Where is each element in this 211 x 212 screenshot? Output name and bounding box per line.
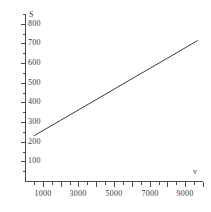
y-tick-label: 100 — [28, 157, 41, 165]
y-tick-major — [21, 161, 26, 162]
y-tick-minor — [23, 152, 26, 153]
x-tick-minor — [159, 182, 160, 185]
x-tick-major — [203, 182, 204, 187]
y-tick-label: 700 — [28, 39, 41, 47]
x-tick-major — [61, 182, 62, 187]
y-tick-minor — [23, 93, 26, 94]
y-tick-label: 300 — [28, 118, 41, 126]
x-tick-minor — [70, 182, 71, 185]
x-axis-title: v — [193, 168, 197, 176]
y-tick-label: 800 — [28, 20, 41, 28]
x-tick-minor — [34, 182, 35, 185]
x-tick-minor — [194, 182, 195, 185]
y-axis-title: S — [29, 11, 33, 19]
y-tick-major — [21, 102, 26, 103]
y-tick-minor — [23, 132, 26, 133]
x-tick-major — [96, 182, 97, 187]
x-tick-major — [185, 182, 186, 187]
x-tick-minor — [105, 182, 106, 185]
y-tick-major — [21, 24, 26, 25]
x-tick-label: 9000 — [177, 190, 194, 198]
y-tick-minor — [23, 53, 26, 54]
x-tick-minor — [176, 182, 177, 185]
y-tick-major — [21, 63, 26, 64]
y-tick-label: 200 — [28, 138, 41, 146]
y-tick-minor — [23, 171, 26, 172]
y-tick-minor — [23, 112, 26, 113]
x-tick-minor — [123, 182, 124, 185]
x-tick-label: 3000 — [70, 190, 87, 198]
y-axis-line — [25, 14, 26, 182]
x-tick-minor — [87, 182, 88, 185]
x-tick-minor — [52, 182, 53, 185]
y-tick-label: 600 — [28, 59, 41, 67]
y-tick-major — [21, 122, 26, 123]
x-tick-label: 7000 — [142, 190, 159, 198]
y-tick-minor — [23, 14, 26, 15]
y-tick-label: 400 — [28, 98, 41, 106]
y-tick-major — [21, 142, 26, 143]
x-tick-label: 5000 — [106, 190, 123, 198]
x-tick-label: 1000 — [35, 190, 52, 198]
y-tick-major — [21, 43, 26, 44]
y-tick-minor — [23, 34, 26, 35]
x-tick-major — [150, 182, 151, 187]
y-tick-major — [21, 83, 26, 84]
x-tick-major — [167, 182, 168, 187]
y-tick-label: 500 — [28, 79, 41, 87]
data-series-line — [34, 41, 198, 136]
x-tick-major — [114, 182, 115, 187]
x-tick-major — [43, 182, 44, 187]
line-chart: 100200300400500600700800 100030005000700… — [0, 0, 211, 212]
x-tick-major — [132, 182, 133, 187]
x-tick-major — [78, 182, 79, 187]
x-tick-minor — [141, 182, 142, 185]
y-tick-minor — [23, 73, 26, 74]
